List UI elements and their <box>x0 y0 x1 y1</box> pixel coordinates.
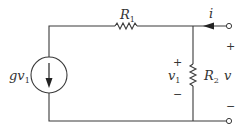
v-label: v <box>224 68 232 83</box>
v1-label: v1 <box>168 68 180 85</box>
top-wire-left <box>49 26 115 57</box>
top-terminal <box>226 23 231 28</box>
current-label: i <box>209 6 213 21</box>
r1-label: R1 <box>119 7 135 24</box>
v1-minus: − <box>173 88 182 101</box>
circuit-diagram: gv1 R1 i + v1 − R2 + v − <box>0 0 243 137</box>
bottom-terminal <box>226 118 231 123</box>
current-arrow-icon <box>203 23 214 30</box>
source-label: gv1 <box>9 68 30 85</box>
v-plus: + <box>226 40 235 53</box>
source-arrow-down-icon <box>46 78 53 88</box>
resistor-r2 <box>190 64 196 86</box>
v-minus: − <box>226 100 235 113</box>
bottom-wire <box>49 93 226 121</box>
r2-label: R2 <box>203 68 219 85</box>
